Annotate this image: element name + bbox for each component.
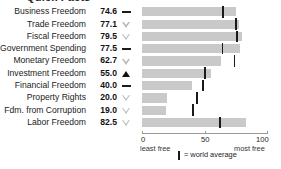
world-average-tick bbox=[219, 117, 221, 129]
row-label-zone: Trade Freedom77.1 bbox=[0, 18, 136, 30]
row-label-zone: Investment Freedom55.0 bbox=[0, 67, 136, 79]
value-bar bbox=[142, 32, 242, 41]
trend-dash-icon bbox=[120, 81, 134, 91]
row-label-zone: Financial Freedom40.0 bbox=[0, 80, 136, 92]
row-label-zone: Fdm. from Corruption19.0 bbox=[0, 104, 136, 116]
value-bar bbox=[142, 20, 239, 29]
legend-label: = world average bbox=[184, 150, 237, 160]
economic-freedom-bar-chart: Quick Facts Business Freedom74.6Trade Fr… bbox=[0, 0, 281, 169]
category-label: Labor Freedom bbox=[27, 117, 86, 128]
row-label-zone: Labor Freedom82.5 bbox=[0, 117, 136, 129]
value-bar bbox=[142, 69, 211, 78]
axis-ticklabel-100: 100 bbox=[256, 135, 269, 144]
chart-row: Fiscal Freedom79.5 bbox=[0, 31, 281, 43]
row-label-zone: Property Rights20.0 bbox=[0, 92, 136, 104]
trend-dash-icon bbox=[120, 44, 134, 54]
value-bar bbox=[142, 81, 192, 90]
world-average-tick bbox=[222, 43, 224, 55]
world-average-tick bbox=[236, 31, 238, 43]
world-average-tick bbox=[235, 18, 237, 30]
world-average-tick bbox=[204, 67, 206, 79]
row-plot-area bbox=[142, 55, 268, 67]
category-label: Business Freedom bbox=[14, 6, 86, 17]
world-average-tick bbox=[196, 92, 198, 104]
value-bar bbox=[142, 56, 221, 65]
row-plot-area bbox=[142, 67, 268, 79]
trend-down-triangle-icon bbox=[120, 56, 134, 66]
value-bar bbox=[142, 118, 246, 127]
chart-row: Fdm. from Corruption19.0 bbox=[0, 104, 281, 116]
row-plot-area bbox=[142, 6, 268, 18]
chart-row: Monetary Freedom62.7 bbox=[0, 55, 281, 67]
category-label: Investment Freedom bbox=[7, 68, 86, 79]
world-average-marker-icon bbox=[178, 151, 180, 160]
trend-down-triangle-icon bbox=[120, 93, 134, 103]
value-bar bbox=[142, 93, 167, 102]
chart-row: Business Freedom74.6 bbox=[0, 6, 281, 18]
value-label: 77.5 bbox=[89, 43, 117, 54]
row-plot-area bbox=[142, 117, 268, 129]
category-label: Monetary Freedom bbox=[13, 55, 86, 66]
chart-row: Investment Freedom55.0 bbox=[0, 67, 281, 79]
axis-tick-50 bbox=[205, 131, 206, 134]
chart-row: Financial Freedom40.0 bbox=[0, 80, 281, 92]
row-plot-area bbox=[142, 43, 268, 55]
row-label-zone: Monetary Freedom62.7 bbox=[0, 55, 136, 67]
value-bar bbox=[142, 44, 240, 53]
world-average-tick bbox=[234, 55, 236, 67]
row-plot-area bbox=[142, 18, 268, 30]
world-average-tick bbox=[202, 80, 204, 92]
category-label: Fdm. from Corruption bbox=[4, 105, 86, 116]
value-label: 40.0 bbox=[89, 80, 117, 91]
axis-label-most-free: most free bbox=[234, 144, 265, 153]
value-label: 62.7 bbox=[89, 55, 117, 66]
row-plot-area bbox=[142, 80, 268, 92]
category-label: Trade Freedom bbox=[27, 19, 86, 30]
row-label-zone: Government Spending77.5 bbox=[0, 43, 136, 55]
value-label: 77.1 bbox=[89, 19, 117, 30]
axis-ticklabel-0: 0 bbox=[141, 135, 145, 144]
value-label: 74.6 bbox=[89, 6, 117, 17]
value-label: 20.0 bbox=[89, 92, 117, 103]
trend-down-triangle-icon bbox=[120, 106, 134, 116]
world-average-tick bbox=[222, 6, 224, 18]
world-average-tick bbox=[192, 104, 194, 116]
cropped-heading-fragment: Quick Facts bbox=[0, 0, 281, 4]
chart-row: Labor Freedom82.5 bbox=[0, 117, 281, 129]
trend-down-triangle-icon bbox=[120, 32, 134, 42]
trend-up-triangle-icon bbox=[120, 69, 134, 79]
category-label: Financial Freedom bbox=[15, 80, 86, 91]
category-label: Government Spending bbox=[0, 43, 86, 54]
cropped-heading-text: Quick Facts bbox=[26, 0, 91, 3]
chart-row: Trade Freedom77.1 bbox=[0, 18, 281, 30]
row-plot-area bbox=[142, 104, 268, 116]
value-label: 19.0 bbox=[89, 105, 117, 116]
value-bar bbox=[142, 106, 166, 115]
value-label: 82.5 bbox=[89, 117, 117, 128]
axis-ticklabel-50: 50 bbox=[201, 135, 209, 144]
category-label: Property Rights bbox=[27, 92, 86, 103]
value-label: 55.0 bbox=[89, 68, 117, 79]
row-label-zone: Fiscal Freedom79.5 bbox=[0, 31, 136, 43]
trend-down-triangle-icon bbox=[120, 118, 134, 128]
axis-tick-0 bbox=[142, 131, 143, 134]
category-label: Fiscal Freedom bbox=[27, 31, 86, 42]
trend-dash-icon bbox=[120, 7, 134, 17]
chart-row: Property Rights20.0 bbox=[0, 92, 281, 104]
trend-down-triangle-icon bbox=[120, 19, 134, 29]
row-plot-area bbox=[142, 92, 268, 104]
axis-label-least-free: least free bbox=[140, 144, 170, 153]
chart-rows: Business Freedom74.6Trade Freedom77.1Fis… bbox=[0, 6, 281, 129]
chart-row: Government Spending77.5 bbox=[0, 43, 281, 55]
axis-tick-100 bbox=[267, 131, 268, 134]
row-label-zone: Business Freedom74.6 bbox=[0, 6, 136, 18]
value-label: 79.5 bbox=[89, 31, 117, 42]
row-plot-area bbox=[142, 31, 268, 43]
